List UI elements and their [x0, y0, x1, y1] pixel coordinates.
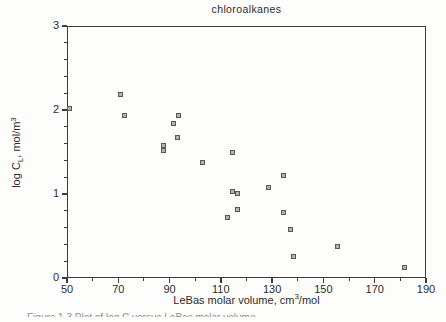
- y-major-tick: [62, 25, 67, 27]
- data-point-marker: [122, 113, 127, 118]
- y-tick-label: 2: [39, 103, 59, 115]
- y-minor-tick: [64, 143, 67, 144]
- y-minor-tick: [64, 244, 67, 245]
- x-minor-tick: [92, 278, 93, 281]
- chart-title: chloroalkanes: [67, 3, 426, 15]
- data-point-marker: [225, 215, 230, 220]
- x-minor-tick: [246, 278, 247, 281]
- data-point-marker: [288, 227, 293, 232]
- data-point-marker: [171, 121, 176, 126]
- data-point-marker: [161, 148, 166, 153]
- data-point-marker: [118, 92, 123, 97]
- data-point-marker: [67, 106, 72, 111]
- y-tick-label: 3: [39, 19, 59, 31]
- x-tick-label: 170: [359, 283, 391, 295]
- y-minor-tick: [64, 160, 67, 161]
- x-minor-tick: [400, 278, 401, 281]
- y-minor-tick: [64, 42, 67, 43]
- y-axis-label-text: log C: [10, 162, 22, 188]
- y-major-tick: [62, 193, 67, 195]
- y-axis-label: log CL, mol/m3: [9, 27, 24, 279]
- y-minor-tick: [64, 126, 67, 127]
- y-tick-label: 1: [39, 187, 59, 199]
- data-point-marker: [235, 191, 240, 196]
- figure-scatter-plot: chloroalkanes log CL, mol/m3 LeBas molar…: [0, 0, 446, 322]
- x-tick-label: 70: [102, 283, 134, 295]
- x-tick-label: 90: [154, 283, 186, 295]
- data-point-marker: [175, 135, 180, 140]
- x-tick-label: 150: [307, 283, 339, 295]
- y-axis-label-subscript: L: [16, 158, 25, 162]
- x-tick-label: 110: [205, 283, 237, 295]
- x-axis-label-text: LeBas molar volume, cm: [173, 294, 294, 306]
- y-minor-tick: [64, 177, 67, 178]
- x-minor-tick: [297, 278, 298, 281]
- y-minor-tick: [64, 76, 67, 77]
- data-point-marker: [281, 173, 286, 178]
- x-tick-label: 50: [51, 283, 83, 295]
- data-point-marker: [335, 244, 340, 249]
- data-point-marker: [266, 185, 271, 190]
- data-point-marker: [176, 113, 181, 118]
- y-minor-tick: [64, 227, 67, 228]
- x-tick-label: 190: [410, 283, 442, 295]
- y-major-tick: [62, 277, 67, 279]
- y-minor-tick: [64, 210, 67, 211]
- y-minor-tick: [64, 261, 67, 262]
- y-minor-tick: [64, 93, 67, 94]
- data-point-marker: [200, 160, 205, 165]
- y-minor-tick: [64, 59, 67, 60]
- data-point-marker: [402, 265, 407, 270]
- data-point-marker: [281, 210, 286, 215]
- plot-area: [67, 26, 426, 278]
- x-minor-tick: [143, 278, 144, 281]
- x-minor-tick: [195, 278, 196, 281]
- y-axis-label-units: , mol/m: [10, 122, 22, 158]
- x-axis-label-units: /mol: [299, 294, 320, 306]
- y-tick-label: 0: [39, 271, 59, 283]
- data-point-marker: [235, 207, 240, 212]
- y-axis-label-superscript: 3: [9, 117, 18, 121]
- data-point-marker: [230, 150, 235, 155]
- x-minor-tick: [349, 278, 350, 281]
- x-tick-label: 130: [256, 283, 288, 295]
- figure-caption-cropped: Figure 1.3 Plot of log C versus LeBas mo…: [27, 312, 342, 317]
- data-point-marker: [291, 254, 296, 259]
